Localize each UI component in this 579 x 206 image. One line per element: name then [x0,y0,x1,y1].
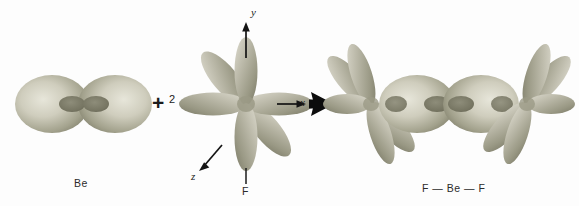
stoichiometry-count: 2 [169,94,175,105]
be-p-orbital [15,75,152,133]
z-axis-label: z [191,170,195,182]
orbital-diagram-svg [0,0,579,206]
reactant-f-label: F [242,185,249,197]
y-axis-label: y [251,6,256,18]
product-formula-label: F — Be — F [422,182,485,194]
x-axis-label: x [300,96,305,108]
figure-canvas: Be + 2 y x z F F — Be — F [0,0,579,206]
plus-sign: + [152,92,164,113]
reactant-be-label: Be [74,177,88,189]
product-bef2-orbitals [320,41,577,167]
